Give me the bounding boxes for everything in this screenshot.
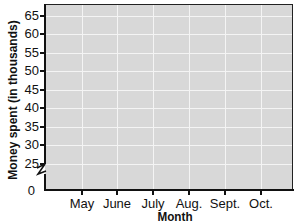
y-tick	[40, 52, 45, 54]
x-axis-title: Month	[148, 209, 202, 224]
plot-area	[45, 4, 293, 190]
x-tick	[81, 190, 83, 195]
y-tick	[40, 144, 45, 146]
y-tick	[40, 163, 45, 165]
x-tick	[116, 190, 118, 195]
y-tick	[40, 126, 45, 128]
y-axis-line	[44, 4, 46, 164]
gridline-july	[153, 5, 154, 190]
y-tick-label: 0	[0, 184, 35, 197]
gridline-june	[117, 5, 118, 190]
gridline-aug	[189, 5, 190, 190]
x-tick	[224, 190, 226, 195]
y-tick	[40, 89, 45, 91]
x-tick	[260, 190, 262, 195]
x-tick-label: Oct.	[239, 196, 283, 211]
y-tick	[40, 33, 45, 35]
y-tick	[40, 70, 45, 72]
gridline-oct	[261, 5, 262, 190]
gridline-may	[82, 5, 83, 190]
y-tick	[40, 15, 45, 17]
x-tick	[152, 190, 154, 195]
y-axis-title: Money spent (in thousands)	[6, 15, 20, 185]
gridline-sept	[225, 5, 226, 190]
x-tick	[188, 190, 190, 195]
y-tick	[40, 107, 45, 109]
